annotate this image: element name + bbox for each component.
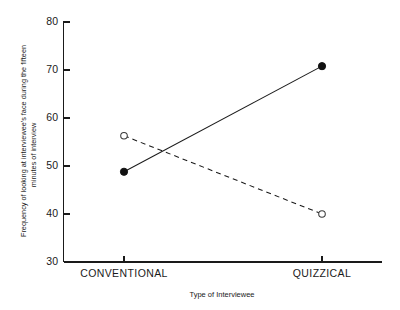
data-point-dashed-conventional bbox=[121, 132, 128, 139]
data-point-solid-conventional bbox=[120, 168, 127, 175]
series-dashed-open-circle bbox=[121, 132, 326, 217]
x-tick-label-conventional: CONVENTIONAL bbox=[80, 267, 168, 279]
y-axis-label-line1: Frequency of looking at interviewee's fa… bbox=[19, 45, 28, 237]
line-chart-canvas: Frequency of looking at interviewee's fa… bbox=[0, 0, 400, 310]
y-tick-label-30: 30 bbox=[46, 255, 58, 267]
y-tick-label-60: 60 bbox=[46, 111, 58, 123]
y-axis-label-line2: minutes of interview bbox=[29, 122, 38, 187]
series-line-dashed bbox=[124, 136, 322, 214]
y-tick-label-50: 50 bbox=[46, 159, 58, 171]
y-tick-label-80: 80 bbox=[46, 15, 58, 27]
data-point-dashed-quizzical bbox=[319, 211, 326, 218]
data-point-solid-quizzical bbox=[318, 63, 325, 70]
series-solid-filled-circle bbox=[120, 63, 325, 176]
x-axis-ticks: CONVENTIONAL QUIZZICAL bbox=[80, 256, 351, 279]
y-axis-ticks: 30 40 50 60 70 80 bbox=[46, 15, 70, 267]
chart-figure: Frequency of looking at interviewee's fa… bbox=[0, 0, 400, 310]
x-axis-title: Type of Interviewee bbox=[189, 290, 254, 299]
y-tick-label-70: 70 bbox=[46, 63, 58, 75]
x-tick-label-quizzical: QUIZZICAL bbox=[293, 267, 351, 279]
y-axis-label-group: Frequency of looking at interviewee's fa… bbox=[19, 45, 38, 237]
series-line-solid bbox=[124, 66, 322, 172]
y-tick-label-40: 40 bbox=[46, 207, 58, 219]
